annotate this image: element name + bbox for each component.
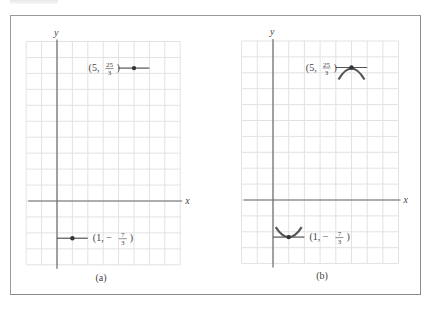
svg-text:25: 25	[323, 61, 331, 69]
svg-text:(5,: (5,	[306, 62, 317, 74]
figure-svg: x y (5,253)(1, −73) (a) x y (5,253)(1, −…	[0, 0, 433, 310]
point-label: (1, −73)	[93, 231, 133, 247]
svg-text:7: 7	[121, 231, 125, 239]
critical-point: (1, −73)	[273, 227, 350, 246]
x-axis-label-a: x	[184, 195, 190, 206]
y-axis-label-b: y	[269, 26, 275, 37]
point-label: (1, −73)	[309, 230, 349, 246]
point-label: (5,253)	[306, 61, 337, 77]
svg-text:): )	[346, 231, 349, 243]
svg-text:3: 3	[121, 239, 125, 247]
svg-text:(1, −: (1, −	[309, 231, 328, 243]
panel-a: x y (5,253)(1, −73) (a)	[26, 27, 190, 285]
y-axis-label-a: y	[53, 27, 59, 38]
svg-text:3: 3	[108, 69, 112, 77]
svg-text:(5,: (5,	[89, 62, 100, 74]
svg-text:(1, −: (1, −	[93, 232, 112, 244]
svg-text:): )	[334, 62, 337, 74]
caption-a: (a)	[95, 272, 106, 284]
svg-text:25: 25	[106, 61, 114, 69]
svg-text:): )	[130, 232, 133, 244]
point-dot	[70, 236, 74, 240]
critical-point: (1, −73)	[57, 231, 133, 247]
svg-text:3: 3	[325, 69, 329, 77]
point-dot	[287, 235, 291, 239]
panel-b: x y (5,253)(1, −73) (b)	[242, 26, 409, 282]
svg-text:): )	[116, 62, 119, 74]
caption-b: (b)	[316, 270, 328, 282]
x-axis-label-b: x	[403, 194, 409, 205]
point-label: (5,253)	[89, 61, 120, 77]
svg-text:7: 7	[338, 230, 342, 238]
point-dot	[132, 66, 136, 70]
svg-text:3: 3	[338, 238, 342, 246]
critical-point: (5,253)	[306, 61, 367, 80]
point-dot	[349, 65, 353, 69]
